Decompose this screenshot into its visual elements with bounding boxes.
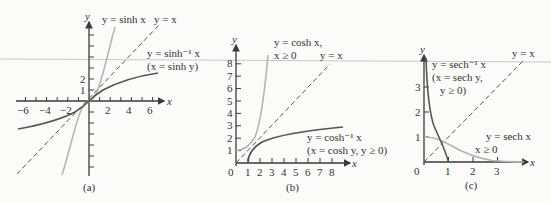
y-tick-label: 5 xyxy=(227,95,233,107)
cosh-label: y = cosh x, xyxy=(274,36,323,48)
acosh-label: y = cosh⁻¹ x xyxy=(307,131,362,143)
panel-b: 0 1 2 3 4 5 6 7 8 1 2 3 4 5 6 7 8 y x y … xyxy=(227,33,388,194)
identity-label: y = x xyxy=(154,13,177,25)
x-tick-label: −4 xyxy=(39,104,51,116)
x-tick-label: 1 xyxy=(445,165,451,177)
y-tick-label: 1 xyxy=(80,84,86,96)
y-tick-label: 2 xyxy=(415,106,421,118)
x-ticks xyxy=(248,158,332,163)
x-tick-label: 3 xyxy=(269,166,275,178)
asech-definition-2: y ≥ 0) xyxy=(440,84,467,97)
cosh-curve xyxy=(236,55,268,151)
sech-domain: x ≥ 0 xyxy=(475,143,498,155)
y-tick-label: 6 xyxy=(227,82,233,94)
x-tick-label: −2 xyxy=(60,104,72,116)
x-tick-label: 3 xyxy=(494,165,500,177)
origin-label: 0 xyxy=(228,166,234,178)
identity-line xyxy=(17,25,159,174)
x-tick-label: 1 xyxy=(245,166,251,178)
x-tick-label: 5 xyxy=(293,166,299,178)
x-tick-label: 2 xyxy=(470,165,476,177)
panel-a: −6 −4 −2 2 4 6 2 1 y x y = sinh x y = x … xyxy=(16,10,200,194)
y-tick-label: 3 xyxy=(227,119,233,131)
x-tick-label: 8 xyxy=(329,166,335,178)
acosh-definition: (x = cosh y, y ≥ 0) xyxy=(307,144,388,157)
x-axis-label: x xyxy=(351,157,357,169)
x-tick-label: 2 xyxy=(105,104,111,116)
x-tick-label: 6 xyxy=(305,166,311,178)
y-tick-label: 4 xyxy=(227,107,233,119)
sinh-label: y = sinh x xyxy=(102,13,146,25)
y-tick-label: 8 xyxy=(227,57,233,69)
x-axis-label: x xyxy=(529,156,535,168)
origin-label: 0 xyxy=(414,165,420,177)
sech-label: y = sech x xyxy=(486,130,531,142)
x-tick-label: 6 xyxy=(147,104,153,116)
panel-c: 0 1 2 3 1 2 3 y x y = x y = sech⁻¹ x (x … xyxy=(414,43,535,192)
asinh-definition: (x = sinh y) xyxy=(147,60,198,73)
asech-label: y = sech⁻¹ x xyxy=(432,58,487,70)
x-axis-label: x xyxy=(166,95,172,107)
y-tick-label: 1 xyxy=(415,131,421,143)
caption-c: (c) xyxy=(465,179,478,192)
y-tick-label: 2 xyxy=(227,132,233,144)
y-axis-label: y xyxy=(231,33,237,45)
x-tick-label: 2 xyxy=(257,166,263,178)
y-axis-label: y xyxy=(84,10,90,22)
asinh-label: y = sinh⁻¹ x xyxy=(147,47,200,59)
x-tick-label: −6 xyxy=(17,104,29,116)
asech-definition-1: (x = sech y, xyxy=(432,71,483,84)
y-tick-label: 7 xyxy=(227,70,233,82)
y-axis-label: y xyxy=(419,43,425,55)
identity-label: y = x xyxy=(320,49,343,61)
x-tick-label: 7 xyxy=(317,166,323,178)
caption-a: (a) xyxy=(83,181,96,194)
y-ticks xyxy=(236,64,241,151)
cosh-domain: x ≥ 0 xyxy=(274,49,297,61)
y-tick-label: 1 xyxy=(227,144,233,156)
y-tick-label: 3 xyxy=(415,81,421,93)
x-tick-label: 4 xyxy=(281,166,287,178)
identity-label: y = x xyxy=(512,47,535,59)
caption-b: (b) xyxy=(286,181,299,194)
x-tick-label: 4 xyxy=(126,104,132,116)
hyperbolic-inverse-figure: −6 −4 −2 2 4 6 2 1 y x y = sinh x y = x … xyxy=(0,0,551,203)
